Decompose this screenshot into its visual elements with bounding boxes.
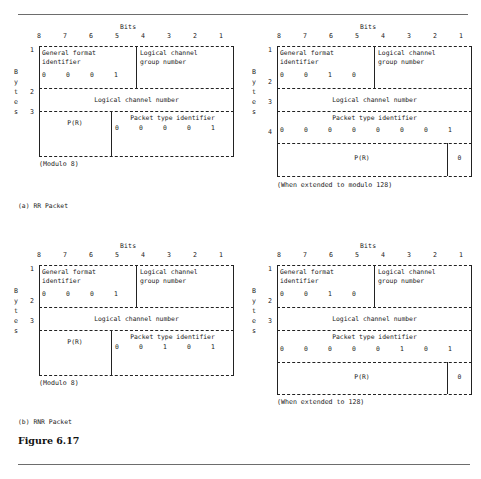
bit-number-2: 2 <box>422 252 448 259</box>
bytes-letter-t: t <box>252 307 260 315</box>
pti-bit-2: 0 <box>424 345 448 353</box>
gfi-bit-values: 0 0 1 0 <box>280 71 376 79</box>
gfi-bit-6: 1 <box>328 290 352 298</box>
bit-number-row: 8 7 6 5 4 3 2 1 <box>266 252 474 259</box>
gfi-bit-7: 0 <box>66 71 90 79</box>
gfi-bit-values: 0 0 0 1 <box>42 71 138 79</box>
bit-number-8: 8 <box>26 252 52 259</box>
packet-frame-rnr-modulo128: General format identifier Logical channe… <box>277 265 472 395</box>
byte-number-3: 3 <box>24 317 34 325</box>
bytes-letter-y: y <box>14 78 22 86</box>
packet-frame-rr-modulo128: General format identifier Logical channe… <box>277 46 472 178</box>
bytes-letter-t: t <box>14 307 22 315</box>
byte-number-1: 1 <box>262 46 272 54</box>
bytes-letter-t: t <box>14 88 22 96</box>
packet-frame-rnr-modulo8: General format identifier Logical channe… <box>39 265 234 376</box>
byte2-byte3-divider <box>277 111 472 112</box>
gfi-label-line2: identifier <box>42 58 80 66</box>
bytes-letter-y: y <box>14 297 22 305</box>
bits-header-label: Bits <box>120 243 136 250</box>
pr-last-bit: 0 <box>448 373 471 381</box>
pti-bit-6: 0 <box>328 345 352 353</box>
pti-bit-5: 0 <box>115 343 139 351</box>
pti-bit-2: 0 <box>187 124 211 132</box>
lcgn-label-line2: group number <box>140 277 186 285</box>
bit-number-1: 1 <box>208 33 234 40</box>
byte-number-3: 3 <box>262 98 272 106</box>
gfi-lcgn-divider <box>374 46 375 88</box>
gfi-bit-8: 0 <box>280 71 304 79</box>
pti-bit-5: 0 <box>352 126 376 134</box>
pti-bit-5: 0 <box>115 124 139 132</box>
byte3-byte4-divider <box>277 143 472 144</box>
bit-number-4: 4 <box>370 252 396 259</box>
bit-number-2: 2 <box>182 33 208 40</box>
gfi-bit-6: 1 <box>328 71 352 79</box>
bit-number-7: 7 <box>292 252 318 259</box>
bit-number-1: 1 <box>208 252 234 259</box>
bit-number-1: 1 <box>448 33 474 40</box>
byte1-byte2-divider <box>39 307 234 308</box>
pti-bit-values: 0 0 1 0 1 <box>115 343 235 351</box>
gfi-bit-values: 0 0 1 0 <box>280 290 376 298</box>
pti-bit-1: 1 <box>448 345 472 353</box>
byte2-byte3-divider <box>277 330 472 331</box>
packet-frame-rr-modulo8: General format identifier Logical channe… <box>39 46 234 157</box>
bytes-letter-e: e <box>252 98 260 106</box>
bytes-side-column-rr-modulo8: B y t e s 1 2 3 <box>14 44 36 154</box>
gfi-bit-values: 0 0 0 1 <box>42 290 138 298</box>
gfi-label-line1: General format <box>42 268 96 276</box>
gfi-label-line2: identifier <box>42 277 80 285</box>
pti-bit-6: 0 <box>328 126 352 134</box>
bit-number-8: 8 <box>266 252 292 259</box>
byte-number-4: 4 <box>262 128 272 136</box>
bit-number-3: 3 <box>396 252 422 259</box>
bit-number-row: 8 7 6 5 4 3 2 1 <box>266 33 474 40</box>
byte-number-2: 2 <box>24 88 34 96</box>
pti-bit-values: 0 0 0 0 1 <box>115 124 235 132</box>
bytes-letter-e: e <box>14 317 22 325</box>
frame-right-border <box>471 265 472 394</box>
lcgn-label-line1: Logical channel <box>378 268 436 276</box>
pti-bit-8: 0 <box>280 345 304 353</box>
gfi-bit-6: 0 <box>90 290 114 298</box>
bytes-letter-s: s <box>252 108 260 116</box>
bytes-letter-y: y <box>252 297 260 305</box>
byte-number-2: 2 <box>24 297 34 305</box>
pti-bit-3: 0 <box>163 124 187 132</box>
gfi-bit-8: 0 <box>42 71 66 79</box>
gfi-bit-7: 0 <box>66 290 90 298</box>
bit-number-row: 8 7 6 5 4 3 2 1 <box>26 33 234 40</box>
lcgn-label-line2: group number <box>378 277 424 285</box>
bit-number-5: 5 <box>344 33 370 40</box>
pr-label: P(R) <box>39 338 111 346</box>
bytes-letter-y: y <box>252 78 260 86</box>
caption-rr-packet: (a) RR Packet <box>18 202 68 210</box>
byte-number-3: 3 <box>262 317 272 325</box>
figure-label: Figure 6.17 <box>18 435 79 446</box>
bit-number-6: 6 <box>78 33 104 40</box>
pti-bit-3: 0 <box>400 126 424 134</box>
subcaption-rnr-modulo128: (When extended to 128) <box>277 398 364 406</box>
bytes-letter-s: s <box>252 327 260 335</box>
gfi-bit-5: 1 <box>114 290 138 298</box>
page-top-rule <box>18 14 468 15</box>
bit-number-7: 7 <box>52 33 78 40</box>
bit-number-5: 5 <box>344 252 370 259</box>
frame-right-border <box>471 46 472 176</box>
bytes-letter-b: B <box>252 68 260 76</box>
gfi-bit-5: 0 <box>352 71 376 79</box>
gfi-label-line1: General format <box>280 268 334 276</box>
lcgn-label-line1: Logical channel <box>140 268 198 276</box>
gfi-bit-8: 0 <box>280 290 304 298</box>
pti-label: Packet type identifier <box>112 333 233 341</box>
bytes-letter-e: e <box>14 98 22 106</box>
pti-bit-7: 0 <box>304 345 328 353</box>
subcaption-rnr-modulo8: (Modulo 8) <box>39 379 79 387</box>
bit-number-7: 7 <box>292 33 318 40</box>
page-bottom-rule <box>18 464 470 465</box>
pr-last-bit: 0 <box>448 154 471 162</box>
pr-label: P(R) <box>277 154 447 162</box>
bit-number-3: 3 <box>156 33 182 40</box>
bytes-side-column-rnr-modulo8: B y t e s 1 2 3 <box>14 263 36 373</box>
